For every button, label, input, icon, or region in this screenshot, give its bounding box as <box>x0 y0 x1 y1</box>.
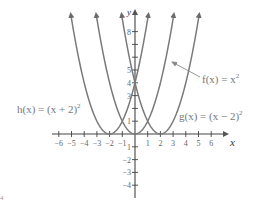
x-tick-label: 5 <box>197 139 201 148</box>
g-label-text: g(x) = (x − 2) <box>179 110 239 123</box>
h-curve-left-branch <box>71 15 110 134</box>
y-tick-label: −2 <box>122 156 131 165</box>
h-label-sup: 2 <box>77 102 81 110</box>
x-tick-label: −4 <box>80 139 89 148</box>
y-tick-label: 1 <box>127 117 131 126</box>
f-curve-right-branch <box>135 15 174 134</box>
f-label: f(x) = x2 <box>172 62 240 86</box>
y-tick-label: 8 <box>127 28 131 37</box>
y-tick-label: 5 <box>127 66 131 75</box>
g-label-sup: 2 <box>239 109 243 117</box>
x-tick-label: 4 <box>184 139 188 148</box>
x-tick-label: −1 <box>118 139 127 148</box>
h-label: h(x) = (x + 2)2 <box>17 102 81 116</box>
x-tick-label: 6 <box>209 139 213 148</box>
x-tick-label: −6 <box>55 139 64 148</box>
svg-text:f(x) = x2: f(x) = x2 <box>202 72 240 86</box>
x-tick-label: 1 <box>146 139 150 148</box>
svg-text:g(x) = (x − 2)2: g(x) = (x − 2)2 <box>179 109 243 123</box>
g-label: g(x) = (x − 2)2 <box>179 109 243 123</box>
y-tick-label: −3 <box>122 168 131 177</box>
parabola-plot: −6−5−4−3−2−1123456 134581−2−3−4 x y f(x)… <box>0 0 261 210</box>
y-tick-label: −4 <box>122 181 131 190</box>
graph-figure: −6−5−4−3−2−1123456 134581−2−3−4 x y f(x)… <box>0 0 261 210</box>
x-tick-label: 3 <box>171 139 175 148</box>
y-tick-label: 3 <box>127 92 131 101</box>
h-label-text: h(x) = (x + 2) <box>17 103 77 116</box>
x-tick-label: −2 <box>105 139 114 148</box>
x-tick-label: 2 <box>158 139 162 148</box>
f-label-text: f(x) = x <box>202 73 236 86</box>
x-tick-label: −3 <box>93 139 102 148</box>
f-pointer-arrow <box>172 62 200 77</box>
y-tick-label: 1 <box>127 143 131 152</box>
corner-mark: 4 <box>0 194 4 202</box>
x-axis-label: x <box>229 136 235 148</box>
svg-text:h(x) = (x + 2)2: h(x) = (x + 2)2 <box>17 102 81 116</box>
x-tick-label: −5 <box>67 139 76 148</box>
y-axis-label: y <box>126 7 131 17</box>
f-label-sup: 2 <box>236 72 240 80</box>
y-tick-label: 4 <box>127 79 131 88</box>
